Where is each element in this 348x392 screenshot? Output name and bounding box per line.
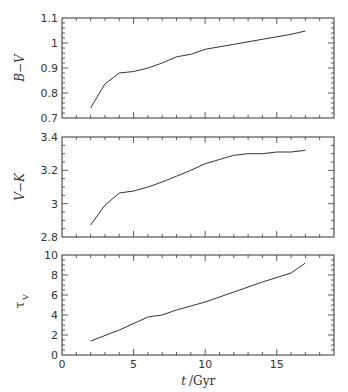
axis-labels: B−V V−K τ V t /Gyr bbox=[0, 0, 348, 392]
panel3-ylabel-tau: τ bbox=[13, 301, 27, 308]
panel2-ylabel: V−K bbox=[13, 172, 27, 201]
xlabel-t: t bbox=[181, 374, 186, 388]
panel3-ylabel-sub: V bbox=[21, 294, 30, 301]
panel3-ylabel: τ V bbox=[13, 294, 30, 308]
panel1-ylabel: B−V bbox=[13, 53, 27, 83]
xlabel-unit: /Gyr bbox=[189, 374, 215, 388]
